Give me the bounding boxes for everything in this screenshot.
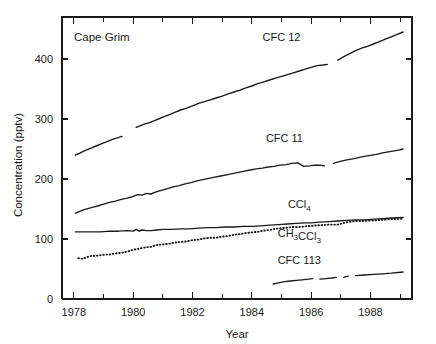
series-line-cfc-113 bbox=[273, 279, 312, 284]
series-line-cfc-11 bbox=[333, 149, 403, 163]
y-tick-label: 200 bbox=[35, 173, 53, 185]
y-axis-tick-labels: 0100200300400 bbox=[35, 53, 53, 305]
series-label-cfc-113: CFC 113 bbox=[278, 254, 321, 266]
series-label-ch3ccl3: CH3CCl3 bbox=[278, 227, 322, 245]
chart-data-series bbox=[75, 32, 403, 284]
y-tick-label: 100 bbox=[35, 233, 53, 245]
x-tick-label: 1980 bbox=[121, 306, 145, 318]
x-axis-title: Year bbox=[225, 328, 248, 340]
chart-figure: 0100200300400 197819801982198419861988 C… bbox=[0, 0, 436, 344]
series-line-cfc-113 bbox=[344, 276, 348, 277]
y-axis-title: Concentration (pptv) bbox=[12, 113, 24, 217]
series-line-ch3ccl3 bbox=[78, 219, 403, 259]
x-tick-label: 1988 bbox=[358, 306, 382, 318]
series-line-cfc-12 bbox=[338, 32, 403, 60]
chart-tick-marks bbox=[62, 17, 412, 299]
x-tick-label: 1982 bbox=[180, 306, 204, 318]
concentration-time-series-chart: 0100200300400 197819801982198419861988 C… bbox=[0, 0, 436, 344]
series-label-cfc-12: CFC 12 bbox=[263, 31, 301, 43]
x-axis-tick-labels: 197819801982198419861988 bbox=[62, 306, 383, 318]
x-tick-label: 1984 bbox=[240, 306, 264, 318]
x-tick-label: 1978 bbox=[62, 306, 86, 318]
y-tick-label: 300 bbox=[35, 113, 53, 125]
chart-axes bbox=[62, 17, 412, 299]
series-line-ccl4 bbox=[75, 217, 403, 231]
series-line-cfc-113 bbox=[320, 277, 336, 279]
plot-frame bbox=[62, 17, 412, 299]
series-line-cfc-12 bbox=[75, 136, 122, 155]
series-line-cfc-12 bbox=[136, 64, 327, 127]
series-label-cfc-11: CFC 11 bbox=[266, 132, 303, 144]
series-label-ccl4: CCl4 bbox=[288, 198, 311, 213]
x-tick-label: 1986 bbox=[299, 306, 323, 318]
series-line-cfc-113 bbox=[356, 272, 403, 276]
plot-title: Cape Grim bbox=[74, 31, 130, 43]
y-tick-label: 0 bbox=[47, 293, 53, 305]
y-tick-label: 400 bbox=[35, 53, 53, 65]
